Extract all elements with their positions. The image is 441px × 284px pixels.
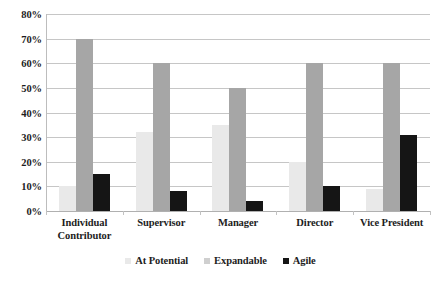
category-tick xyxy=(123,211,124,215)
legend-label: Expandable xyxy=(214,255,267,266)
y-axis-tick-label: 60% xyxy=(21,58,42,69)
legend-swatch-icon xyxy=(204,258,210,264)
category-label-line: Vice President xyxy=(353,216,430,229)
bar-groups xyxy=(46,14,430,211)
bar[interactable] xyxy=(289,162,306,211)
bar[interactable] xyxy=(153,63,170,211)
category-tick xyxy=(200,211,201,215)
bar[interactable] xyxy=(229,88,246,211)
category-tick xyxy=(46,211,47,215)
bar-slot xyxy=(400,135,417,211)
bar[interactable] xyxy=(306,63,323,211)
y-axis-tick-label: 50% xyxy=(21,82,42,93)
bar-slot xyxy=(170,191,187,211)
y-axis-tick-label: 80% xyxy=(21,9,42,20)
legend-item[interactable]: At Potential xyxy=(125,255,188,266)
category-label: Manager xyxy=(200,216,277,242)
category-label-line: Contributor xyxy=(46,229,123,242)
bar[interactable] xyxy=(136,132,153,211)
category-label-line: Manager xyxy=(200,216,277,229)
bar-slot xyxy=(59,186,76,211)
legend-item[interactable]: Expandable xyxy=(204,255,267,266)
category-label-line: Supervisor xyxy=(123,216,200,229)
category-tick xyxy=(353,211,354,215)
bar[interactable] xyxy=(246,201,263,211)
bar-slot xyxy=(93,174,110,211)
chart-legend: At PotentialExpandableAgile xyxy=(0,255,441,266)
bar-slot xyxy=(306,63,323,211)
category-label: Vice President xyxy=(353,216,430,242)
bar-slot xyxy=(246,201,263,211)
bar[interactable] xyxy=(366,189,383,211)
bar-slot xyxy=(366,189,383,211)
bar[interactable] xyxy=(400,135,417,211)
legend-swatch-icon xyxy=(283,258,289,264)
bar[interactable] xyxy=(212,125,229,211)
bar-slot xyxy=(323,186,340,211)
y-axis-tick-label: 10% xyxy=(21,181,42,192)
y-axis-tick-label: 20% xyxy=(21,156,42,167)
bar-slot xyxy=(229,88,246,211)
category-axis-ticks xyxy=(46,211,430,215)
bar-slot xyxy=(289,162,306,211)
category-tick xyxy=(430,211,431,215)
y-axis-tick-label: 40% xyxy=(21,107,42,118)
y-axis-tick-label: 0% xyxy=(26,206,42,217)
category-label-line: Individual xyxy=(46,216,123,229)
bar[interactable] xyxy=(59,186,76,211)
bar-group xyxy=(276,14,353,211)
y-axis-tick-label: 30% xyxy=(21,132,42,143)
bar-slot xyxy=(136,132,153,211)
bar-slot xyxy=(76,39,93,211)
legend-item[interactable]: Agile xyxy=(283,255,316,266)
legend-label: Agile xyxy=(293,255,316,266)
category-label: IndividualContributor xyxy=(46,216,123,242)
legend-swatch-icon xyxy=(125,258,131,264)
bar[interactable] xyxy=(76,39,93,211)
y-axis-tick-label: 70% xyxy=(21,33,42,44)
bar-group xyxy=(123,14,200,211)
y-axis-tick-labels: 80%70%60%50%40%30%20%10%0% xyxy=(0,14,42,211)
category-axis-labels: IndividualContributorSupervisorManagerDi… xyxy=(46,216,430,242)
bar-chart: 80%70%60%50%40%30%20%10%0% IndividualCon… xyxy=(0,0,441,284)
bar-group xyxy=(200,14,277,211)
legend-label: At Potential xyxy=(135,255,188,266)
category-tick xyxy=(276,211,277,215)
bar-slot xyxy=(153,63,170,211)
bar[interactable] xyxy=(323,186,340,211)
bar-group xyxy=(46,14,123,211)
bar[interactable] xyxy=(170,191,187,211)
bar[interactable] xyxy=(93,174,110,211)
category-label: Director xyxy=(276,216,353,242)
bar-group xyxy=(353,14,430,211)
bar-slot xyxy=(383,63,400,211)
bar-slot xyxy=(212,125,229,211)
bar[interactable] xyxy=(383,63,400,211)
category-label: Supervisor xyxy=(123,216,200,242)
category-label-line: Director xyxy=(276,216,353,229)
